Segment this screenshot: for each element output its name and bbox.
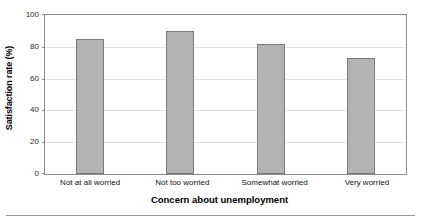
- y-axis-tick-labels: 100 80 60 40 20 0: [18, 8, 42, 180]
- bar-somewhat-worried[interactable]: [257, 44, 285, 174]
- plot-area: [44, 14, 407, 175]
- y-tick-label-80: 80: [30, 41, 39, 50]
- bar-not-at-all-worried[interactable]: [76, 39, 104, 174]
- y-axis-title: Satisfaction rate (%): [0, 0, 18, 176]
- x-axis-category-labels: Not at all worried Not too worried Somew…: [44, 178, 413, 187]
- y-tick-label-20: 20: [30, 137, 39, 146]
- y-tick-label-60: 60: [30, 73, 39, 82]
- bar-slot-2: [135, 15, 225, 174]
- y-tick-label-40: 40: [30, 105, 39, 114]
- x-category-label-4: Very worried: [321, 178, 413, 187]
- bar-slot-1: [45, 15, 135, 174]
- bar-slot-4: [316, 15, 406, 174]
- bar-not-too-worried[interactable]: [166, 31, 194, 174]
- x-axis-title: Concern about unemployment: [18, 194, 421, 205]
- bar-slot-3: [226, 15, 316, 174]
- x-category-label-1: Not at all worried: [44, 178, 136, 187]
- plot-wrapper: 100 80 60 40 20 0: [18, 8, 413, 180]
- y-tick-label-0: 0: [35, 169, 39, 178]
- y-axis-title-text: Satisfaction rate (%): [4, 46, 14, 130]
- bar-chart-figure: Satisfaction rate (%) 100 80 60 40 20 0: [0, 0, 421, 224]
- bar-very-worried[interactable]: [347, 58, 375, 174]
- x-category-label-3: Somewhat worried: [229, 178, 321, 187]
- bottom-divider: [6, 215, 415, 216]
- bar-group: [45, 15, 406, 174]
- x-category-label-2: Not too worried: [136, 178, 228, 187]
- y-tick-label-100: 100: [26, 10, 39, 19]
